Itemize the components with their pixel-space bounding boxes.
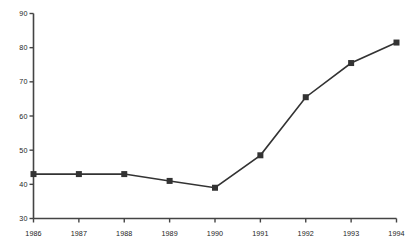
y-axis-tick-label: 80: [6, 43, 28, 52]
data-point-marker: [167, 178, 173, 184]
data-point-marker: [31, 171, 37, 177]
data-point-marker: [303, 94, 309, 100]
x-axis-tick-label: 1988: [104, 229, 144, 238]
y-axis-tick-label: 30: [6, 214, 28, 223]
data-point-marker: [121, 171, 127, 177]
data-point-marker: [76, 171, 82, 177]
data-point-marker: [348, 60, 354, 66]
chart-axes: [30, 14, 397, 223]
x-axis-tick-label: 1987: [59, 229, 99, 238]
chart-plot-area: [0, 0, 409, 244]
data-point-marker: [394, 40, 400, 46]
y-axis-tick-label: 40: [6, 180, 28, 189]
y-axis-tick-label: 90: [6, 9, 28, 18]
x-axis-tick-label: 1992: [286, 229, 326, 238]
x-axis-tick-label: 1993: [331, 229, 371, 238]
x-axis-tick-label: 1989: [150, 229, 190, 238]
y-axis-tick-label: 50: [6, 146, 28, 155]
data-point-marker: [257, 152, 263, 158]
series-line: [34, 43, 397, 188]
y-axis-tick-label: 70: [6, 77, 28, 86]
x-axis-tick-label: 1994: [377, 229, 409, 238]
line-chart: 30405060708090 1986198719881989199019911…: [0, 0, 409, 244]
data-point-marker: [212, 185, 218, 191]
x-axis-tick-label: 1986: [14, 229, 54, 238]
x-axis-tick-label: 1990: [195, 229, 235, 238]
chart-series: [31, 40, 400, 191]
y-axis-tick-label: 60: [6, 112, 28, 121]
x-axis-tick-label: 1991: [240, 229, 280, 238]
